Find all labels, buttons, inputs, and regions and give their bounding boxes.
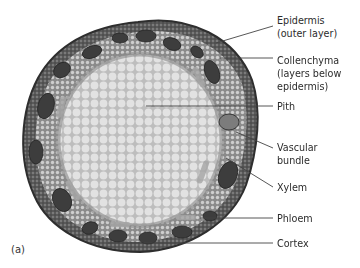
- label-cortex: Cortex: [277, 237, 309, 250]
- label-phloem: Phloem: [277, 212, 313, 225]
- stem-cross-section-image: [0, 0, 360, 268]
- label-pith: Pith: [277, 100, 295, 113]
- label-vascular-bundle: Vascular bundle: [277, 141, 318, 167]
- label-collenchyma: Collenchyma (layers below epidermis): [277, 54, 341, 93]
- label-xylem: Xylem: [277, 181, 307, 194]
- label-epidermis: Epidermis (outer layer): [277, 14, 337, 40]
- stem-cross-section-figure: Epidermis (outer layer) Collenchyma (lay…: [0, 0, 360, 268]
- panel-label: (a): [11, 244, 25, 255]
